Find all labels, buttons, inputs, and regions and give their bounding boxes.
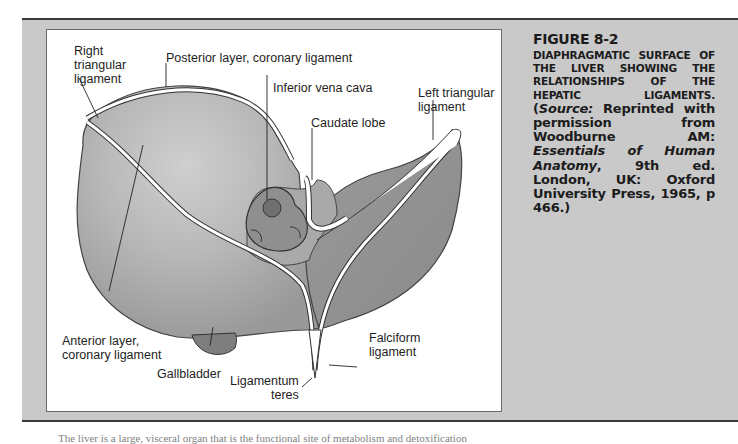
illustration-panel: Right triangular ligament Posterior laye… [46, 29, 502, 412]
label-left-triangular-ligament: Left triangular ligament [418, 86, 494, 114]
figure-number: FIGURE 8-2 [533, 31, 715, 47]
label-falciform-ligament: Falciform ligament [369, 331, 420, 359]
label-posterior-coronary-ligament: Posterior layer, coronary ligament [166, 51, 352, 65]
ligamentum-teres [309, 330, 321, 378]
figure-heading: DIAPHRAGMATIC SURFACE OF THE LIVER SHOWI… [533, 49, 715, 101]
label-anterior-coronary-ligament: Anterior layer, coronary ligament [62, 334, 161, 362]
top-divider [22, 18, 738, 20]
figure-caption-text: DIAPHRAGMATIC SURFACE OF THE LIVER SHOWI… [533, 49, 715, 215]
inferior-vena-cava-lumen [263, 199, 281, 217]
figure-source: (Source: Reprinted with permission from … [533, 101, 715, 215]
label-inferior-vena-cava: Inferior vena cava [273, 81, 372, 95]
label-gallbladder: Gallbladder [157, 367, 221, 381]
bottom-divider [22, 420, 738, 422]
gallbladder [192, 333, 237, 354]
figure-caption: FIGURE 8-2 DIAPHRAGMATIC SURFACE OF THE … [533, 31, 715, 215]
body-paragraph-line: The liver is a large, visceral organ tha… [58, 432, 467, 444]
label-right-triangular-ligament: Right triangular ligament [74, 44, 126, 86]
label-ligamentum-teres: Ligamentum teres [230, 374, 299, 402]
label-caudate-lobe: Caudate lobe [311, 116, 385, 130]
